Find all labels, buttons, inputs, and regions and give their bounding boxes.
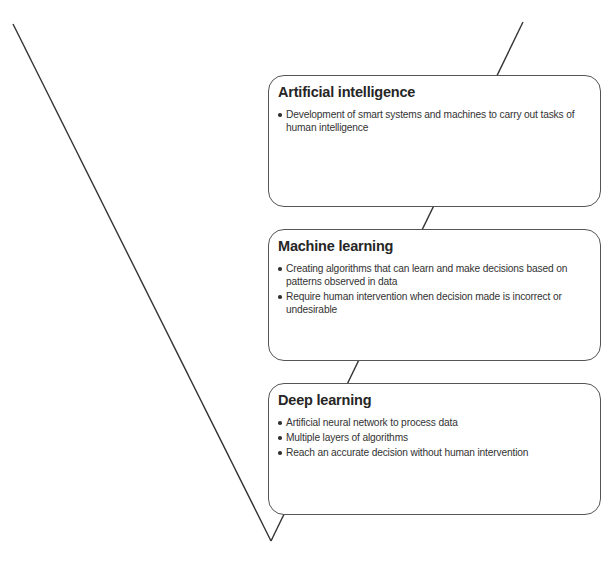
bullet-icon xyxy=(278,451,282,455)
bullet-item: Multiple layers of algorithms xyxy=(278,431,590,444)
bullet-item: Artificial neural network to process dat… xyxy=(278,416,590,429)
funnel-left-edge xyxy=(13,24,271,541)
bullet-list: Artificial neural network to process dat… xyxy=(278,416,590,459)
bullet-text: Artificial neural network to process dat… xyxy=(286,417,458,428)
bullet-list: Creating algorithms that can learn and m… xyxy=(278,262,590,316)
bullet-text: Multiple layers of algorithms xyxy=(286,432,408,443)
bullet-item: Development of smart systems and machine… xyxy=(278,108,590,134)
level-title: Deep learning xyxy=(278,392,590,409)
bullet-list: Development of smart systems and machine… xyxy=(278,108,590,134)
bullet-text: Reach an accurate decision without human… xyxy=(286,447,528,458)
level-box-deep-learning: Deep learning Artificial neural network … xyxy=(268,383,601,515)
level-title: Machine learning xyxy=(278,238,590,255)
bullet-text: Require human intervention when decision… xyxy=(286,291,562,315)
bullet-text: Creating algorithms that can learn and m… xyxy=(286,263,567,287)
bullet-text: Development of smart systems and machine… xyxy=(286,109,574,133)
bullet-item: Require human intervention when decision… xyxy=(278,290,590,316)
bullet-icon xyxy=(278,421,282,425)
level-title: Artificial intelligence xyxy=(278,84,590,101)
bullet-icon xyxy=(278,267,282,271)
level-box-machine-learning: Machine learning Creating algorithms tha… xyxy=(268,229,601,361)
bullet-icon xyxy=(278,295,282,299)
bullet-item: Creating algorithms that can learn and m… xyxy=(278,262,590,288)
bullet-item: Reach an accurate decision without human… xyxy=(278,446,590,459)
bullet-icon xyxy=(278,113,282,117)
bullet-icon xyxy=(278,436,282,440)
level-box-artificial-intelligence: Artificial intelligence Development of s… xyxy=(268,75,601,207)
